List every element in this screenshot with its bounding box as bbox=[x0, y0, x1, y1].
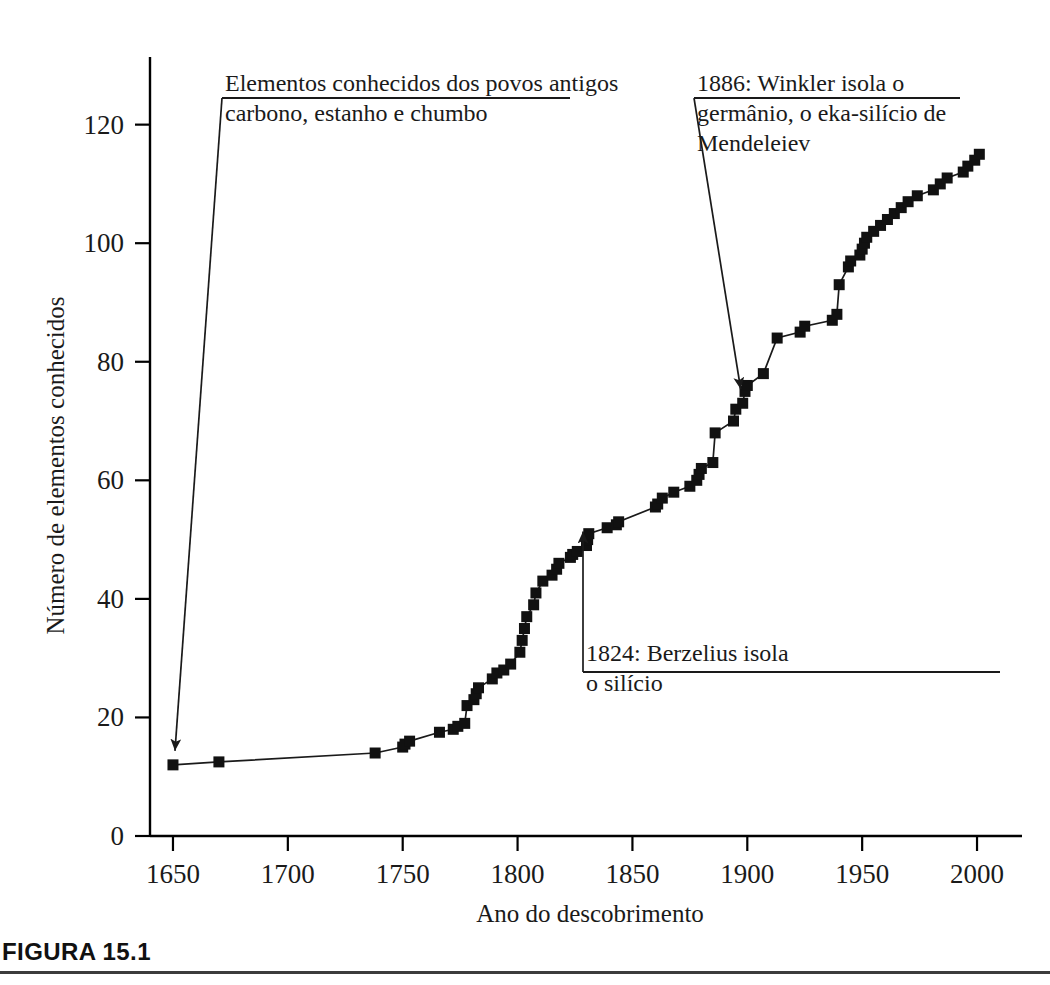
series-point-marker bbox=[583, 528, 594, 539]
series-point-marker bbox=[530, 587, 541, 598]
chart-axes bbox=[135, 57, 1022, 851]
series-point-marker bbox=[710, 427, 721, 438]
y-tick-label: 100 bbox=[84, 228, 125, 258]
y-tick-label: 40 bbox=[97, 584, 124, 614]
series-point-marker bbox=[742, 380, 753, 391]
y-tick-label: 20 bbox=[97, 702, 124, 732]
callout-leader-ancient bbox=[175, 98, 222, 751]
series-point-marker bbox=[167, 759, 178, 770]
series-point-marker bbox=[657, 493, 668, 504]
x-tick-label: 1800 bbox=[491, 859, 545, 889]
series-point-marker bbox=[473, 682, 484, 693]
y-tick-label: 120 bbox=[84, 110, 125, 140]
x-axis-title: Ano do descobrimento bbox=[476, 900, 704, 927]
series-point-marker bbox=[831, 309, 842, 320]
y-tick-label: 80 bbox=[97, 347, 124, 377]
series-point-marker bbox=[696, 463, 707, 474]
series-point-marker bbox=[728, 416, 739, 427]
annotation-berzelius-silicon: 1824: Berzelius isola o silício bbox=[586, 638, 886, 698]
series-point-marker bbox=[517, 635, 528, 646]
series-point-marker bbox=[404, 736, 415, 747]
series-point-marker bbox=[213, 756, 224, 767]
series-point-marker bbox=[613, 516, 624, 527]
series-point-marker bbox=[553, 558, 564, 569]
y-tick-label: 60 bbox=[97, 465, 124, 495]
chart-tick-labels: 0204060801001201650170017501800185019001… bbox=[42, 110, 1004, 927]
series-point-marker bbox=[459, 718, 470, 729]
series-point-marker bbox=[772, 333, 783, 344]
x-tick-label: 1650 bbox=[146, 859, 200, 889]
annotation-winkler-germanium: 1886: Winkler isola o germânio, o eka-si… bbox=[697, 68, 977, 159]
series-point-marker bbox=[528, 599, 539, 610]
x-tick-label: 1950 bbox=[835, 859, 889, 889]
figure-caption-label: FIGURA 15.1 bbox=[0, 938, 1050, 966]
series-point-marker bbox=[505, 659, 516, 670]
figure-container: 0204060801001201650170017501800185019001… bbox=[0, 0, 1050, 985]
y-axis-title: Número de elementos conhecidos bbox=[42, 296, 69, 634]
figure-caption: FIGURA 15.1 bbox=[0, 938, 1050, 974]
series-point-marker bbox=[519, 623, 530, 634]
series-point-marker bbox=[370, 748, 381, 759]
series-point-marker bbox=[799, 321, 810, 332]
series-point-marker bbox=[707, 457, 718, 468]
series-point-marker bbox=[514, 647, 525, 658]
series-point-marker bbox=[912, 190, 923, 201]
series-point-marker bbox=[758, 368, 769, 379]
series-point-marker bbox=[521, 611, 532, 622]
annotation-ancient-elements: Elementos conhecidos dos povos antigos c… bbox=[225, 68, 625, 128]
series-point-marker bbox=[668, 487, 679, 498]
series-point-marker bbox=[942, 172, 953, 183]
x-tick-label: 1850 bbox=[605, 859, 659, 889]
series-point-marker bbox=[434, 727, 445, 738]
series-point-marker bbox=[737, 398, 748, 409]
x-tick-label: 1700 bbox=[261, 859, 315, 889]
y-tick-label: 0 bbox=[111, 821, 125, 851]
series-point-marker bbox=[834, 279, 845, 290]
x-tick-label: 1750 bbox=[376, 859, 430, 889]
caption-divider bbox=[0, 971, 1050, 974]
x-tick-label: 1900 bbox=[720, 859, 774, 889]
x-tick-label: 2000 bbox=[950, 859, 1004, 889]
